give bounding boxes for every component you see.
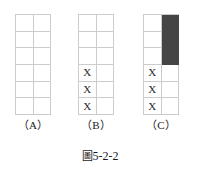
cell-mark-x: X xyxy=(148,67,156,78)
grid-cell xyxy=(16,15,34,32)
grid-a xyxy=(15,14,51,115)
grid-cell: X xyxy=(79,65,97,82)
grid-cell xyxy=(16,82,34,99)
figure-caption-number: 5-2-2 xyxy=(93,149,119,163)
cell-mark-x: X xyxy=(83,83,91,94)
grid-cell: X xyxy=(79,98,97,115)
grid-cell xyxy=(16,65,34,82)
grid-cell xyxy=(97,48,115,65)
grid-cell: X xyxy=(144,98,162,115)
cell-mark-x: X xyxy=(148,100,156,111)
grid-cell xyxy=(16,32,34,49)
grid-cell xyxy=(34,32,52,49)
panel-label-b: （B） xyxy=(78,120,114,131)
grid-cell xyxy=(162,32,180,49)
grid-cell: X xyxy=(144,82,162,99)
figure-caption-symbol: 圖 xyxy=(82,150,93,163)
panel-group: XXX XXX （A） （B） （C） xyxy=(0,0,200,140)
figure-caption: 圖5-2-2 xyxy=(0,150,200,162)
grid-cell xyxy=(162,98,180,115)
grid-cell xyxy=(97,15,115,32)
grid-cell xyxy=(97,32,115,49)
grid-cell xyxy=(34,82,52,99)
grid-cell xyxy=(16,48,34,65)
grid-cell xyxy=(144,15,162,32)
grid-cell xyxy=(162,65,180,82)
panel-b: XXX xyxy=(78,14,114,115)
grid-cell xyxy=(34,65,52,82)
grid-cell xyxy=(79,15,97,32)
grid-cell xyxy=(162,82,180,99)
panel-c: XXX xyxy=(143,14,179,115)
grid-cell xyxy=(34,98,52,115)
cell-mark-x: X xyxy=(148,83,156,94)
grid-c: XXX xyxy=(143,14,179,115)
grid-cell xyxy=(97,65,115,82)
grid-cell xyxy=(79,32,97,49)
grid-cell xyxy=(79,48,97,65)
grid-cell xyxy=(16,98,34,115)
cell-mark-x: X xyxy=(83,100,91,111)
grid-cell: X xyxy=(79,82,97,99)
grid-cell xyxy=(34,15,52,32)
panel-label-c: （C） xyxy=(143,120,179,131)
grid-cell xyxy=(34,48,52,65)
cell-mark-x: X xyxy=(83,67,91,78)
grid-cell xyxy=(144,48,162,65)
figure-root: XXX XXX （A） （B） （C） 圖5-2-2 xyxy=(0,0,200,174)
panel-label-a: （A） xyxy=(15,120,51,131)
grid-cell xyxy=(162,48,180,65)
grid-cell xyxy=(97,98,115,115)
grid-cell: X xyxy=(144,65,162,82)
grid-cell xyxy=(162,15,180,32)
grid-cell xyxy=(144,32,162,49)
grid-cell xyxy=(97,82,115,99)
grid-b: XXX xyxy=(78,14,114,115)
panel-a xyxy=(15,14,51,115)
